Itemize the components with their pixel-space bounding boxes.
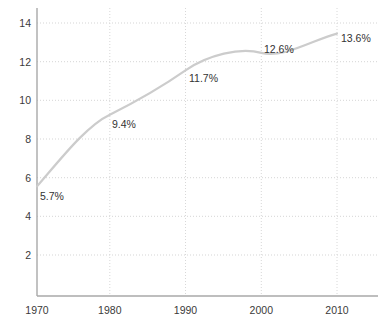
data-point-label: 9.4% xyxy=(112,118,136,130)
x-tick-label: 1980 xyxy=(98,304,122,316)
x-tick-label: 1970 xyxy=(25,304,49,316)
data-point-label: 5.7% xyxy=(40,190,64,202)
data-point-label: 11.7% xyxy=(189,72,218,84)
y-tick-label: 4 xyxy=(25,210,31,222)
chart-canvas: 14 12 10 8 6 4 2 1970 1980 1990 2000 201… xyxy=(0,0,388,324)
y-tick-label: 6 xyxy=(25,172,31,184)
data-point-label: 12.6% xyxy=(264,43,294,55)
data-point-label: 13.6% xyxy=(341,32,371,44)
y-tick-label: 12 xyxy=(19,56,31,68)
x-tick-label: 2000 xyxy=(250,304,274,316)
line-chart: 14 12 10 8 6 4 2 1970 1980 1990 2000 201… xyxy=(0,0,388,324)
y-tick-label: 2 xyxy=(25,249,31,261)
x-tick-label: 1990 xyxy=(174,304,198,316)
x-tick-label: 2010 xyxy=(325,304,349,316)
y-tick-label: 10 xyxy=(19,94,31,106)
y-tick-label: 14 xyxy=(19,17,31,29)
y-tick-label: 8 xyxy=(25,133,31,145)
